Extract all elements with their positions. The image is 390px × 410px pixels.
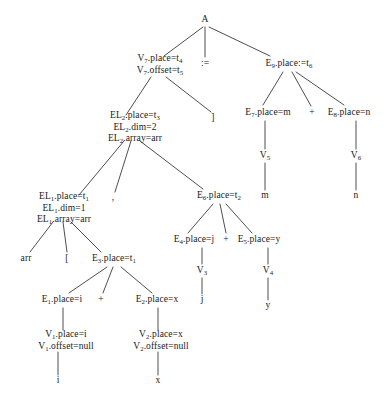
tree-node-plus-mid: + <box>223 234 228 246</box>
node-label-line: + <box>223 234 228 246</box>
tree-edge-E6-to-E5 <box>226 204 252 233</box>
node-label-line: y <box>266 300 271 312</box>
node-label-line: E7.place=m <box>245 107 290 119</box>
tree-node-lbracket: [ <box>65 253 68 265</box>
tree-node-v1: V1.place=iV1.offset=null <box>38 329 94 352</box>
tree-edge-E3-to-E1 <box>69 267 107 293</box>
tree-node-v6: V6 <box>351 150 361 162</box>
tree-node-v5: V5 <box>260 150 270 162</box>
node-label-line: E9.place:=t6 <box>266 58 313 70</box>
tree-node-e6: E6.place=t2 <box>197 190 241 202</box>
node-label-line: V5 <box>260 150 270 162</box>
node-label-line: EL1.dim=1 <box>37 202 91 214</box>
tree-node-v2: V2.place=xV2.offset=null <box>133 329 189 352</box>
node-label-line: EL2.place=t3 <box>108 110 162 122</box>
tree-node-plus-top: + <box>309 107 314 119</box>
node-label-line: V7.place=t4 <box>137 53 184 65</box>
tree-edge-EL2-to-E6 <box>140 141 203 189</box>
tree-edge-EL2-to-comma <box>115 141 131 192</box>
tree-edge-EL1-to-arr_leaf <box>30 222 53 252</box>
tree-edge-E9-to-E8 <box>296 72 344 105</box>
tree-edge-A-to-E9 <box>209 27 270 56</box>
tree-node-el1: EL1.place=t1EL1.dim=1EL1.array=arr <box>37 191 91 226</box>
tree-edge-E9-to-E7 <box>263 72 283 105</box>
node-label-line: V2.place=x <box>133 329 189 341</box>
node-label-line: n <box>354 190 359 202</box>
node-label-line: E5.place=y <box>238 234 281 246</box>
tree-node-el2: EL2.place=t3EL2.dim=2EL2.array=arr <box>108 110 162 145</box>
node-label-line: EL1.place=t1 <box>37 191 91 203</box>
tree-node-n-leaf: n <box>354 190 359 202</box>
node-label-line: V4 <box>263 265 273 277</box>
node-label-line: V1.offset=null <box>38 340 94 352</box>
node-label-line: E6.place=t2 <box>197 190 241 202</box>
tree-node-arr-leaf: arr <box>21 253 32 265</box>
node-label-line: V1.place=i <box>38 329 94 341</box>
tree-node-comma: , <box>112 192 114 204</box>
node-label-line: E2.place=x <box>136 294 179 306</box>
tree-edge-EL1-to-lbracket <box>63 222 67 252</box>
node-label-line: arr <box>21 253 32 265</box>
tree-edge-EL2-to-EL1 <box>79 141 124 195</box>
tree-node-rbracket: ] <box>211 112 214 124</box>
parse-tree-diagram: AV7.place=t4V7.offset=t5:=E9.place:=t6EL… <box>0 0 390 410</box>
tree-node-assign: := <box>201 58 209 70</box>
tree-node-v4: V4 <box>263 265 273 277</box>
tree-edge-EL1-to-E3 <box>71 222 101 252</box>
tree-node-m-leaf: m <box>261 190 269 202</box>
node-label-line: E1.place=i <box>42 294 83 306</box>
node-label-line: EL1.array=arr <box>37 214 91 226</box>
node-label-line: ] <box>211 112 214 124</box>
tree-node-e9: E9.place:=t6 <box>266 58 313 70</box>
tree-node-v7: V7.place=t4V7.offset=t5 <box>137 53 184 76</box>
tree-node-e4: E4.place=j <box>174 234 215 246</box>
node-label-line: V7.offset=t5 <box>137 64 184 76</box>
node-label-line: [ <box>65 253 68 265</box>
tree-node-e3: E3.place=t1 <box>92 253 136 265</box>
tree-edge-V7-to-rbracket <box>166 77 211 112</box>
tree-edge-E6-to-plus_mid <box>220 204 226 233</box>
node-label-line: EL2.dim=2 <box>108 121 162 133</box>
node-label-line: V2.offset=null <box>133 340 189 352</box>
tree-edge-E3-to-E2 <box>121 267 152 293</box>
tree-node-e2: E2.place=x <box>136 294 179 306</box>
tree-node-e1: E1.place=i <box>42 294 83 306</box>
node-label-line: V3 <box>197 265 207 277</box>
tree-node-i-leaf: i <box>57 375 60 387</box>
tree-edge-E9-to-plus_top <box>292 72 311 106</box>
tree-node-v3: V3 <box>197 265 207 277</box>
node-label-line: + <box>98 294 103 306</box>
node-label-line: A <box>202 14 209 26</box>
node-label-line: E3.place=t1 <box>92 253 136 265</box>
node-label-line: j <box>201 294 204 306</box>
node-label-line: x <box>156 375 161 387</box>
tree-node-j-leaf: j <box>201 294 204 306</box>
tree-edge-E3-to-plus_low <box>103 267 113 293</box>
tree-node-plus-low: + <box>98 294 103 306</box>
node-label-line: , <box>112 192 114 204</box>
tree-node-e7: E7.place=m <box>245 107 290 119</box>
node-label-line: + <box>309 107 314 119</box>
node-label-line: V6 <box>351 150 361 162</box>
tree-node-e5: E5.place=y <box>238 234 281 246</box>
node-label-line: i <box>57 375 60 387</box>
node-label-line: E4.place=j <box>174 234 215 246</box>
node-label-line: := <box>201 58 209 70</box>
tree-node-a: A <box>202 14 209 26</box>
tree-node-y-leaf: y <box>266 300 271 312</box>
tree-edge-E6-to-E4 <box>188 204 213 233</box>
node-label-line: EL2.array=arr <box>108 133 162 145</box>
tree-node-x-leaf: x <box>156 375 161 387</box>
node-label-line: E8.place=n <box>328 107 371 119</box>
tree-node-e8: E8.place=n <box>328 107 371 119</box>
node-label-line: m <box>261 190 269 202</box>
